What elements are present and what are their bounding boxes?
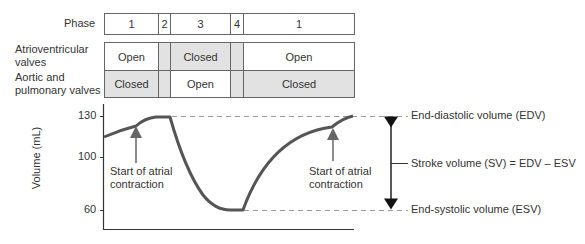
- edv-label: End-diastolic volume (EDV): [411, 109, 546, 121]
- tick-label-60: 60: [84, 203, 96, 215]
- atrial-label-2-line2: contraction: [309, 178, 363, 190]
- atrial-label-1-line2: contraction: [110, 178, 164, 190]
- atrial-label-1-line1: Start of atrial: [110, 165, 172, 177]
- tick-label-130: 130: [78, 109, 96, 121]
- atrial-label-2-line1: Start of atrial: [309, 165, 371, 177]
- y-axis-label: Volume (mL): [30, 127, 42, 189]
- esv-label: End-systolic volume (ESV): [411, 203, 541, 215]
- sv-label: Stroke volume (SV) = EDV – ESV: [411, 157, 576, 169]
- tick-label-100: 100: [78, 150, 96, 162]
- volume-curve: [104, 116, 353, 210]
